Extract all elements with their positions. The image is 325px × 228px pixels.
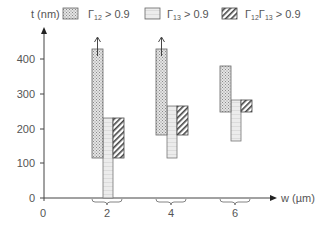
bar-g12: [92, 49, 103, 158]
svg-text:0: 0: [29, 192, 35, 204]
svg-text:300: 300: [17, 88, 35, 100]
svg-text:Γ12 > 0.9: Γ12 > 0.9: [88, 8, 130, 21]
legend-swatch-crosshatch: [63, 8, 78, 19]
legend: t (nm) Γ12 > 0.9 Γ13 > 0.9 Γ12Γ13 > 0.9: [31, 8, 301, 21]
brace-icon: [156, 199, 186, 205]
bar-g1213: [113, 118, 124, 158]
y-tick-labels: 400 300 200 100 0: [17, 53, 35, 204]
bar-group-w6: [220, 66, 252, 141]
bar-g13: [231, 100, 241, 141]
legend-item-g1213: Γ12Γ13 > 0.9: [222, 8, 301, 21]
x-axis-arrow-icon: [270, 195, 277, 201]
bar-group-w2: [92, 37, 124, 198]
svg-text:Γ12Γ13 > 0.9: Γ12Γ13 > 0.9: [245, 8, 301, 21]
svg-text:6: 6: [232, 207, 238, 219]
brace-icon: [220, 199, 250, 205]
x-axis-label: w (µm): [280, 192, 315, 204]
legend-swatch-light: [145, 8, 160, 19]
svg-text:0: 0: [40, 207, 46, 219]
bar-g13: [167, 106, 177, 158]
y-axis-arrow-icon: [41, 27, 47, 34]
brace-icon: [92, 199, 122, 205]
legend-swatch-diagonal: [222, 8, 237, 19]
bar-g13: [103, 118, 113, 198]
chart: t (nm) Γ12 > 0.9 Γ13 > 0.9 Γ12Γ13 > 0.9 …: [0, 0, 325, 228]
legend-item-g13: Γ13 > 0.9: [145, 8, 209, 21]
svg-text:4: 4: [168, 207, 174, 219]
y-axis-label: t (nm): [31, 8, 60, 20]
legend-item-g12: Γ12 > 0.9: [63, 8, 130, 21]
group-braces: [92, 199, 250, 205]
bar-g12: [220, 66, 231, 112]
bar-g1213: [241, 100, 252, 112]
svg-text:Γ13 > 0.9: Γ13 > 0.9: [167, 8, 209, 21]
bar-g12: [156, 49, 167, 135]
svg-text:200: 200: [17, 123, 35, 135]
bar-g1213: [177, 106, 188, 135]
svg-text:100: 100: [17, 157, 35, 169]
svg-text:2: 2: [104, 207, 110, 219]
x-tick-labels: 0 2 4 6 w (µm): [40, 192, 315, 219]
bar-group-w4: [156, 37, 188, 158]
svg-text:400: 400: [17, 53, 35, 65]
